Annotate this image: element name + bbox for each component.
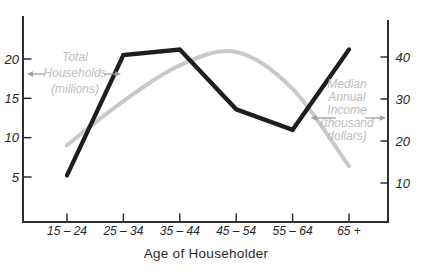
x-category-label: 55 – 64 xyxy=(273,224,313,238)
left-axis-tick-label: 5 xyxy=(12,170,20,185)
right-axis-tick-label: 10 xyxy=(396,176,411,191)
x-category-label: 45 – 54 xyxy=(216,224,256,238)
x-category-label: 15 – 24 xyxy=(47,224,87,238)
arrow-right-icon-head xyxy=(115,71,121,76)
income-label-line: Annual xyxy=(327,90,366,104)
annotations-group: TotalHouseholds(millions)MedianAnnualInc… xyxy=(27,50,386,143)
income-label-line: Income xyxy=(327,103,367,117)
left-axis-tick-label: 15 xyxy=(5,91,20,106)
households-label-line: (millions) xyxy=(51,82,99,96)
dual-axis-line-chart: 51015201020304015 – 2425 – 3435 – 4445 –… xyxy=(0,0,435,277)
left-axis-tick-label: 10 xyxy=(5,130,20,145)
households-label-line: Households xyxy=(43,66,106,80)
series-group xyxy=(67,50,349,176)
x-category-label: 35 – 44 xyxy=(160,224,200,238)
arrow-right-icon-head xyxy=(380,115,386,120)
income-label-line: Median xyxy=(327,77,367,91)
left-axis-tick-label: 20 xyxy=(4,52,20,67)
x-category-label: 65 + xyxy=(337,224,361,238)
chart-figure: 51015201020304015 – 2425 – 3435 – 4445 –… xyxy=(0,0,435,277)
right-axis-tick-label: 20 xyxy=(395,134,411,149)
households-label-line: Total xyxy=(62,50,88,64)
arrow-left-icon-head xyxy=(27,71,33,76)
income-label-line: dollars) xyxy=(327,129,366,143)
x-axis-title: Age of Householder xyxy=(144,246,269,261)
right-axis-tick-label: 30 xyxy=(396,92,411,107)
x-category-label: 25 – 34 xyxy=(102,224,143,238)
right-axis-tick-label: 40 xyxy=(396,50,411,65)
